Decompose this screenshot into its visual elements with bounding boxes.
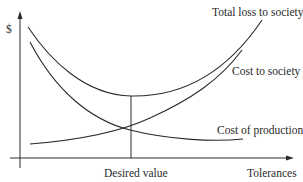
cost-to-society-curve [30,50,242,144]
y-axis-arrow-icon [18,11,23,19]
cost-of-production-label: Cost of production [217,124,303,137]
x-axis-arrow-icon [286,156,294,161]
y-axis-label: $ [6,23,12,35]
x-axis-label: Tolerances [247,167,297,179]
x-axis [10,156,294,161]
tolerance-cost-diagram: $ Total loss to society Cost to society … [0,0,303,182]
cost-of-production-curve [30,42,243,140]
cost-to-society-label: Cost to society [232,65,301,78]
total-loss-curve [28,20,262,96]
desired-value-label: Desired value [104,167,168,179]
y-axis [18,11,23,168]
total-loss-label: Total loss to society [212,6,303,19]
